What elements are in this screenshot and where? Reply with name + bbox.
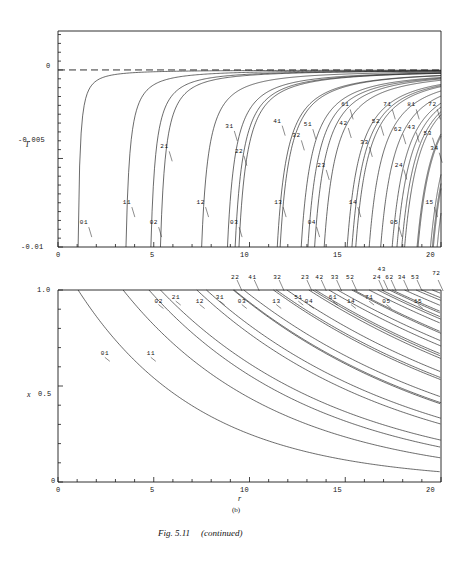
energy-curve-label: 52 [372, 118, 380, 125]
x-curve-label: 62 [385, 274, 393, 281]
energy-curve-label: 72 [428, 101, 436, 108]
caption-figure-number: Fig. 5.11 [158, 528, 190, 538]
energy-ytick-0: 0 [46, 62, 51, 70]
energy-curve-label: 01 [80, 219, 88, 226]
x-xtick-3: 15 [333, 486, 342, 494]
energy-curve-label: 53 [424, 130, 432, 137]
energy-curve-label: 24 [395, 162, 403, 169]
energy-ytick-1: -0.005 [18, 136, 45, 144]
energy-curve-label: 42 [339, 120, 347, 127]
energy-curve-label: 23 [317, 162, 325, 169]
x-curve-label: 34 [398, 274, 406, 281]
caption-continued: (continued) [201, 528, 242, 538]
energy-curve-label: 34 [430, 145, 438, 152]
energy-curve-label: 43 [407, 124, 415, 131]
x-curve-label: 43 [378, 266, 386, 273]
energy-curve-label: 02 [150, 219, 158, 226]
x-curve-label: 02 [154, 298, 162, 305]
energy-curve-label: 21 [160, 143, 168, 150]
energy-curve-label: 14 [349, 199, 357, 206]
energy-xtick-0: 0 [56, 251, 61, 259]
x-curve-label: 51 [294, 294, 302, 301]
x-curve-label: 52 [346, 274, 354, 281]
x-curve-label: 42 [315, 274, 323, 281]
x-ylabel: x [27, 390, 31, 399]
energy-curve-label: 05 [390, 219, 398, 226]
energy-curve-label: 03 [230, 219, 238, 226]
energy-curve-label: 33 [360, 139, 368, 146]
x-curve-label: 04 [305, 298, 313, 305]
energy-xtick-2: 10 [240, 251, 249, 259]
x-curve-label: 12 [196, 298, 204, 305]
x-curve-label: 61 [329, 294, 337, 301]
energy-ytick-2: -0.01 [21, 243, 44, 251]
energy-curve-label: 71 [383, 101, 391, 108]
energy-curve-label: 31 [225, 123, 233, 130]
x-curve-label: 01 [101, 350, 109, 357]
x-curve-label: 31 [216, 294, 224, 301]
x-curve-label: 71 [365, 294, 373, 301]
panel-letter: (b) [232, 506, 240, 514]
energy-xtick-3: 15 [333, 251, 342, 259]
energy-curve-label: 04 [308, 219, 316, 226]
energy-curve-label: 32 [292, 132, 300, 139]
x-curve-label: 24 [373, 274, 381, 281]
x-curve-label: 14 [347, 298, 355, 305]
energy-curve-label: 22 [235, 148, 243, 155]
x-xtick-0: 0 [56, 486, 61, 494]
x-curve-label: 41 [248, 274, 256, 281]
energy-curve-label: 41 [273, 118, 281, 125]
x-curve-label: 03 [238, 298, 246, 305]
x-ytick-0: 1.0 [37, 286, 51, 294]
energy-curve-label: 13 [274, 199, 282, 206]
x-curve-label: 13 [272, 298, 280, 305]
x-xtick-4: 20 [426, 486, 435, 494]
x-curve-label: 23 [301, 274, 309, 281]
energy-curve-label: 12 [197, 199, 205, 206]
x-curve-label: 21 [172, 294, 180, 301]
x-curve-label: 05 [382, 298, 390, 305]
energy-curve-label: 51 [304, 121, 312, 128]
energy-curve-label: 11 [123, 199, 131, 206]
energy-curve-label: 61 [341, 101, 349, 108]
figure-caption: Fig. 5.11(continued) [158, 528, 243, 538]
energy-curve-label: 15 [425, 199, 433, 206]
x-curve-label: 53 [411, 274, 419, 281]
energy-curve-label: 62 [394, 126, 402, 133]
energy-xtick-4: 20 [426, 251, 435, 259]
x-ytick-2: 0 [51, 477, 56, 485]
x-curve-label: 72 [432, 270, 440, 277]
x-curve-label: 33 [331, 274, 339, 281]
x-xtick-2: 10 [240, 486, 249, 494]
energy-xtick-1: 5 [150, 251, 155, 259]
x-curve-label: 32 [273, 274, 281, 281]
x-curve-label: 11 [147, 350, 155, 357]
x-ytick-1: 0.5 [38, 390, 52, 398]
x-curve-label: 22 [231, 274, 239, 281]
x-xlabel: r [238, 494, 242, 503]
energy-curve-label: 81 [407, 101, 415, 108]
figure-container: T 0 -0.005 -0.01 0 5 10 15 20 0111210212… [0, 0, 474, 563]
x-curve-label: 15 [414, 298, 422, 305]
x-xtick-1: 5 [150, 486, 155, 494]
